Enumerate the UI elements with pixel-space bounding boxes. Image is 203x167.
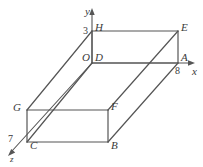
x-axis-label: x xyxy=(192,66,197,77)
vertex-label-H: H xyxy=(95,22,103,33)
vertex-label-C: C xyxy=(30,140,37,151)
tick-label-x-8: 8 xyxy=(175,66,180,76)
vertex-label-O: O xyxy=(82,52,90,63)
y-axis-arrowhead xyxy=(89,8,94,15)
edge-C-D xyxy=(27,63,92,142)
edge-B-A xyxy=(108,63,178,142)
cuboid-group xyxy=(27,31,178,142)
edge-F-E xyxy=(108,31,178,110)
tick-label-z-7: 7 xyxy=(8,134,13,144)
tick-label-y-3: 3 xyxy=(83,26,88,36)
vertex-label-A: A xyxy=(181,52,188,63)
vertex-label-E: E xyxy=(181,22,188,33)
vertex-label-B: B xyxy=(111,140,118,151)
vertex-label-F: F xyxy=(111,101,118,112)
vertex-label-D: D xyxy=(95,52,103,63)
z-axis-label: z xyxy=(10,155,14,164)
y-axis-label: y xyxy=(85,6,90,17)
z-axis-line xyxy=(12,63,92,151)
geometry-figure: y x z 3 8 7 O H E D A G F C B xyxy=(0,0,203,167)
vertex-label-G: G xyxy=(13,102,21,113)
